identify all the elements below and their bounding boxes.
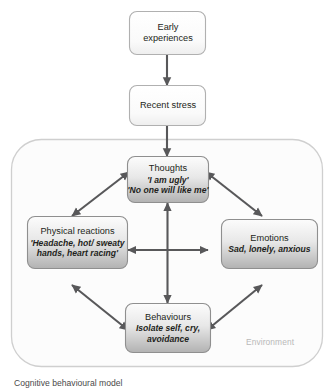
diagram-caption: Cognitive behavioural model [14, 378, 122, 388]
node-emotions-box [222, 220, 318, 269]
environment-label: Environment [246, 337, 294, 347]
node-recent-stress-box [130, 86, 206, 126]
node-behaviours-box [126, 304, 211, 353]
node-early-experiences-box [130, 12, 206, 55]
node-physical-reactions-box [28, 217, 128, 269]
node-thoughts-box [128, 157, 209, 203]
